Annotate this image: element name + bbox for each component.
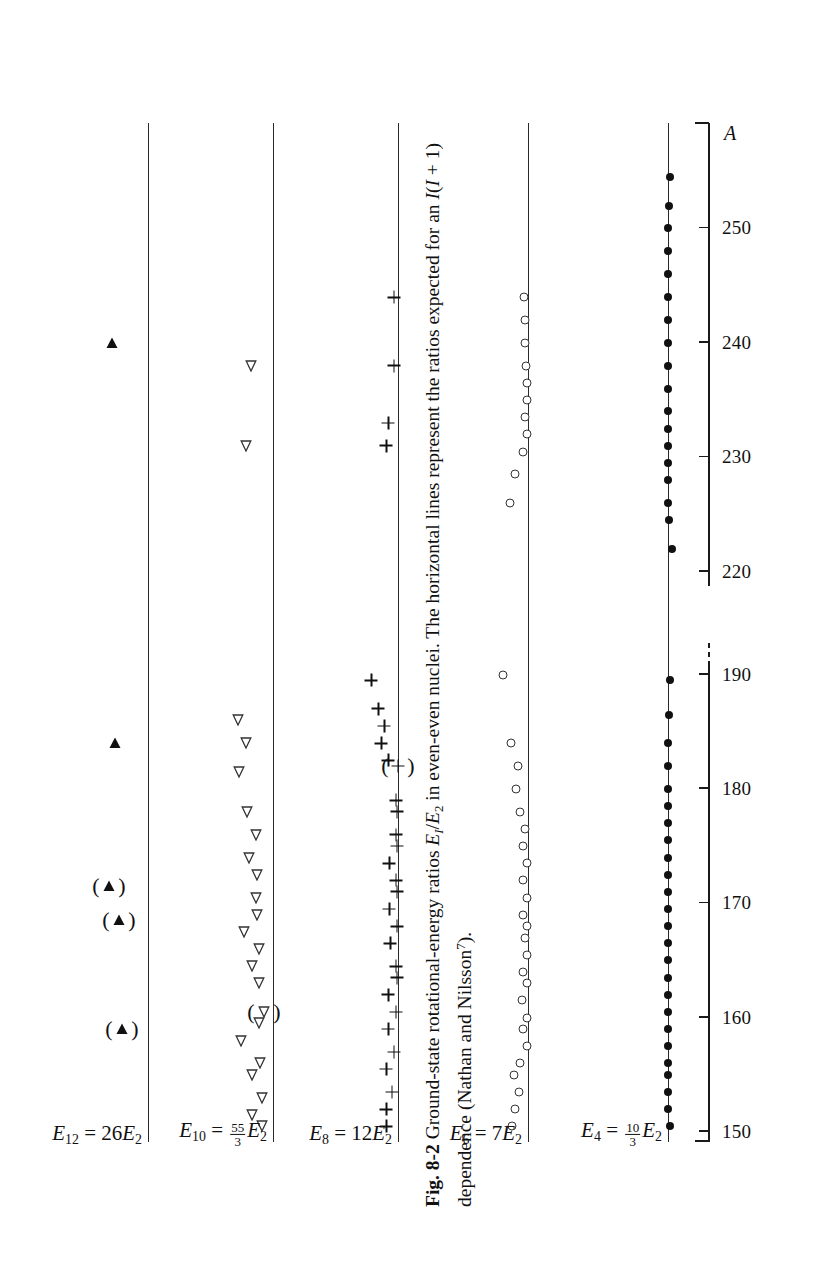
axis-tick-label-190: 190: [722, 663, 751, 685]
data-point-E4-over-E2: [664, 956, 672, 964]
data-point-E4-over-E2: [666, 676, 674, 684]
level-label-E4: E4 = 103E2: [581, 1117, 662, 1147]
data-point-E4-over-E2: [664, 836, 672, 844]
figure-page: 150160170180190220230240250A ()()()()() …: [0, 0, 836, 1263]
data-point-E6-over-E2: [507, 738, 516, 747]
data-point-E10-over-E2: [253, 976, 265, 989]
data-point-E4-over-E2: [664, 476, 672, 484]
data-point-E4-over-E2: [664, 458, 672, 466]
data-point-E6-over-E2: [518, 967, 527, 976]
data-point-E10-over-E2: [245, 359, 257, 372]
data-point-E8-over-E2: [365, 673, 378, 686]
data-point-E8-over-E2: [390, 959, 403, 972]
axis-end-cap: [695, 1140, 709, 1142]
axis-tick-label-230: 230: [722, 446, 751, 468]
data-point-E10-over-E2: [238, 925, 250, 938]
axis-tick-label-160: 160: [722, 1006, 751, 1028]
data-point-E8-over-E2: [390, 873, 403, 886]
data-point-E10-over-E2: [251, 908, 263, 921]
axis-tick-label-220: 220: [722, 560, 751, 582]
data-point-E4-over-E2: [664, 819, 672, 827]
data-point-E6-over-E2: [522, 395, 531, 404]
caption-dependence-plus: + 1): [422, 143, 443, 180]
data-point-E6-over-E2: [521, 361, 530, 370]
data-point-parenthesised-E12-over-E2: [102, 879, 115, 893]
data-point-E8-over-E2: [390, 793, 403, 806]
axis-break-mark: [708, 651, 710, 656]
level-label-E10: E10 = 553E2: [179, 1117, 267, 1147]
caption-ratio-numerator: E: [422, 833, 443, 845]
data-point-E4-over-E2: [664, 293, 672, 301]
axis-tick-label-150: 150: [722, 1121, 751, 1143]
data-point-E6-over-E2: [521, 315, 530, 324]
data-point-E6-over-E2: [522, 858, 531, 867]
reference-line-E10: [273, 123, 274, 1142]
data-point-E6-over-E2: [518, 875, 527, 884]
axis-tick-label-170: 170: [722, 892, 751, 914]
data-point-E10-over-E2: [243, 851, 255, 864]
axis-line: [708, 123, 710, 586]
level-label-E8: E8 = 12E2: [309, 1121, 392, 1148]
data-point-E6-over-E2: [522, 429, 531, 438]
data-point-E10-over-E2: [256, 1091, 268, 1104]
data-point-E4-over-E2: [664, 1087, 672, 1095]
data-point-E6-over-E2: [516, 1058, 525, 1067]
axis-line: [708, 660, 710, 1141]
data-point-E4-over-E2: [664, 270, 672, 278]
data-point-E4-over-E2: [665, 201, 673, 209]
data-point-E4-over-E2: [664, 441, 672, 449]
data-point-E6-over-E2: [517, 995, 526, 1004]
data-point-E10-over-E2: [254, 1056, 266, 1069]
data-point-E8-over-E2: [383, 856, 396, 869]
data-point-E4-over-E2: [664, 498, 672, 506]
data-point-E8-over-E2: [386, 1085, 399, 1098]
parenthesis-glyph: ): [128, 909, 135, 931]
data-point-E4-over-E2: [666, 173, 674, 181]
data-point-E6-over-E2: [511, 1104, 520, 1113]
data-point-E4-over-E2: [665, 710, 673, 718]
parenthesis-glyph: (: [381, 755, 388, 777]
data-point-E6-over-E2: [518, 841, 527, 850]
data-point-parenthesised-E12-over-E2: [112, 913, 125, 927]
caption-dependence-open: (: [422, 186, 443, 193]
data-point-E4-over-E2: [664, 784, 672, 792]
data-point-E8-over-E2: [384, 936, 397, 949]
caption-text-4: ).: [454, 931, 475, 942]
axis-tick: [699, 226, 708, 228]
level-label-E12: E12 = 26E2: [52, 1121, 142, 1148]
data-point-E4-over-E2: [664, 990, 672, 998]
data-point-E6-over-E2: [509, 1070, 518, 1079]
axis-tick: [699, 570, 708, 572]
reference-line-E8: [398, 123, 399, 1142]
data-point-E8-over-E2: [382, 416, 395, 429]
axis-break-mark: [708, 642, 710, 647]
axis-tick-label-180: 180: [722, 777, 751, 799]
data-point-E4-over-E2: [664, 247, 672, 255]
parenthesis-glyph: (: [247, 1000, 254, 1022]
caption-ratio-numerator-sub: I: [432, 829, 446, 833]
data-point-E4-over-E2: [665, 516, 673, 524]
data-point-E10-over-E2: [251, 868, 263, 881]
data-point-E8-over-E2: [390, 828, 403, 841]
data-point-E6-over-E2: [513, 761, 522, 770]
axis-end-cap: [695, 122, 709, 124]
axis-tick: [699, 455, 708, 457]
data-point-E4-over-E2: [664, 887, 672, 895]
data-point-E4-over-E2: [664, 1025, 672, 1033]
data-point-E6-over-E2: [514, 1087, 523, 1096]
data-point-E4-over-E2: [664, 224, 672, 232]
data-point-E4-over-E2: [664, 973, 672, 981]
data-point-E4-over-E2: [664, 424, 672, 432]
data-point-parenthesised-E12-over-E2: [115, 1022, 128, 1036]
data-point-E6-over-E2: [520, 292, 529, 301]
caption-text-2: in even-even nuclei. The horizontal line…: [422, 199, 443, 805]
caption-text-1: Ground-state rotational-energy ratios: [422, 845, 443, 1139]
data-point-E6-over-E2: [512, 784, 521, 793]
data-point-E6-over-E2: [521, 338, 530, 347]
data-point-E4-over-E2: [664, 407, 672, 415]
parenthesis-glyph: ): [407, 755, 414, 777]
reference-line-E12: [148, 123, 149, 1142]
data-point-E10-over-E2: [233, 765, 245, 778]
axis-tick: [699, 901, 708, 903]
data-point-E8-over-E2: [383, 902, 396, 915]
